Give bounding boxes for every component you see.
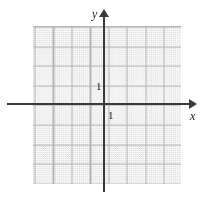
arrow-right-icon bbox=[189, 99, 197, 109]
y-axis-line bbox=[103, 14, 105, 192]
x-axis-unit-tick-label: 1 bbox=[108, 110, 114, 121]
x-axis-line bbox=[7, 103, 192, 105]
y-axis-label: y bbox=[92, 8, 97, 20]
coordinate-grid-figure: y x 1 1 bbox=[0, 0, 205, 202]
x-axis-label: x bbox=[190, 110, 195, 122]
arrow-up-icon bbox=[99, 9, 109, 17]
y-axis-unit-tick-label: 1 bbox=[96, 81, 102, 92]
major-gridlines bbox=[33, 26, 181, 184]
grid-area bbox=[33, 26, 181, 184]
